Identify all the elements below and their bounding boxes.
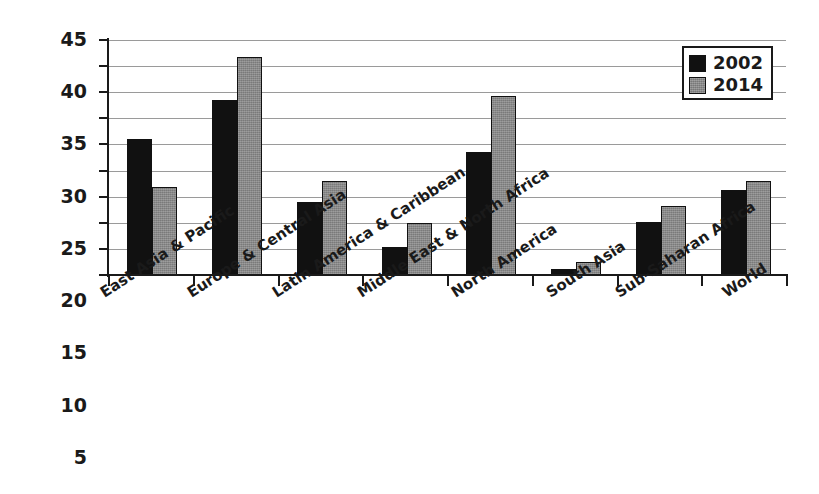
y-axis-tick-label: 30 — [61, 186, 87, 205]
y-axis-line — [107, 38, 109, 277]
y-axis-tick-label: 15 — [61, 343, 87, 362]
gridline — [108, 197, 786, 198]
gridline — [108, 118, 786, 119]
y-axis-tick-label: 5 — [74, 447, 87, 466]
x-axis-tick — [786, 275, 788, 286]
legend-entry-2014[interactable]: 2014 — [689, 74, 766, 96]
legend-entry-2002[interactable]: 2002 — [689, 52, 766, 74]
y-axis-tick-label: 45 — [61, 30, 87, 49]
legend-label-2014: 2014 — [713, 76, 763, 94]
x-axis-tick — [701, 275, 703, 286]
bar-chart: 051015202530354045 East Asia & PacificEu… — [0, 0, 819, 494]
legend-swatch-2002-icon — [689, 55, 706, 72]
bar-2002-europe-central-asia — [212, 100, 237, 275]
gridline — [108, 40, 786, 41]
y-axis-tick-label: 20 — [61, 291, 87, 310]
y-axis-tick-label: 35 — [61, 134, 87, 153]
y-axis-tick-label: 40 — [61, 82, 87, 101]
legend-label-2002: 2002 — [713, 54, 763, 72]
legend-swatch-2014-icon — [689, 77, 706, 94]
legend: 2002 2014 — [682, 46, 773, 100]
gridline — [108, 144, 786, 145]
y-axis-tick-label: 25 — [61, 238, 87, 257]
y-axis-tick-label: 10 — [61, 395, 87, 414]
x-axis-tick — [532, 275, 534, 286]
